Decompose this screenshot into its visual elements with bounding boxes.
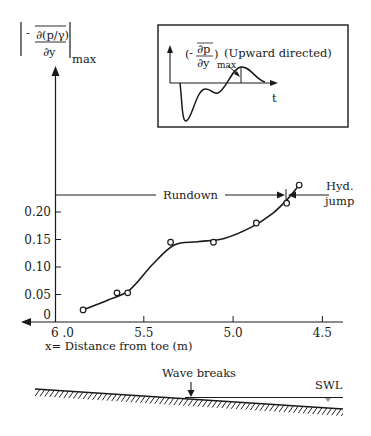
wave-breaks-label: Wave breaks xyxy=(162,366,236,380)
y-axis-label: - ∂(p/γ) ∂y max xyxy=(21,22,97,66)
y-tick-label: 0 xyxy=(43,308,51,322)
data-point xyxy=(114,290,120,296)
y-axis-arrow-icon xyxy=(52,66,60,76)
x-ticks: 6 .05.55.04.5 xyxy=(51,316,332,340)
x-axis-arrow-icon xyxy=(21,318,31,326)
inset-label-prefix: - xyxy=(189,46,193,60)
data-point xyxy=(168,239,174,245)
rundown-arrow-icon xyxy=(277,192,285,199)
y-label-denominator: ∂y xyxy=(43,45,56,59)
x-axis xyxy=(21,318,343,326)
rundown-annotation: Rundown Hyd. jump xyxy=(56,179,354,208)
x-tick-label: 5.5 xyxy=(134,326,153,340)
x-tick-label: 4.5 xyxy=(313,326,332,340)
swl-label: SWL xyxy=(315,378,343,392)
y-label-subscript: max xyxy=(72,52,97,66)
hyd-jump-label-line1: Hyd. xyxy=(326,179,354,193)
data-point xyxy=(211,239,217,245)
inset-t-label: t xyxy=(272,91,277,105)
inset-label-bracket-close: ) xyxy=(214,47,219,61)
x-tick-label: 6 .0 xyxy=(51,326,74,340)
x-tick-label: 5.0 xyxy=(224,326,243,340)
swl-marker-icon xyxy=(325,398,331,402)
y-tick-label: 0.20 xyxy=(24,205,51,219)
data-point xyxy=(296,182,302,188)
inset-panel: t ( - ∂p ∂y ) max (Upward directed) xyxy=(158,25,348,127)
inset-label-subscript: max xyxy=(217,60,236,70)
y-axis xyxy=(52,66,60,322)
y-tick-label: 0.10 xyxy=(24,260,51,274)
inset-label-suffix: (Upward directed) xyxy=(224,46,332,60)
inset-t-arrow-icon xyxy=(270,80,278,86)
wave-breaks-arrow-icon xyxy=(188,390,195,397)
inset-curve xyxy=(180,67,265,121)
rundown-label: Rundown xyxy=(163,188,219,202)
y-tick-label: 0.15 xyxy=(24,233,51,247)
y-label-prefix: - xyxy=(26,26,30,40)
seabed-hatching xyxy=(35,389,343,416)
beach-profile: Wave breaks SWL xyxy=(35,366,343,416)
inset-y-arrow-icon xyxy=(167,45,173,53)
data-point xyxy=(125,290,131,296)
y-tick-label: 0.05 xyxy=(24,288,51,302)
data-point xyxy=(80,307,86,313)
data-point xyxy=(284,200,290,206)
inset-label-denominator: ∂y xyxy=(197,56,210,70)
data-point xyxy=(254,220,260,226)
inset-border xyxy=(158,25,348,127)
hyd-jump-label-line2: jump xyxy=(323,194,354,208)
x-axis-label: x= Distance from toe (m) xyxy=(45,339,192,353)
y-label-numerator: ∂(p/γ) xyxy=(36,28,69,42)
figure: - ∂(p/γ) ∂y max 00.050.100.150.20 6 .05.… xyxy=(0,0,371,436)
inset-label-numerator: ∂p xyxy=(197,42,210,56)
